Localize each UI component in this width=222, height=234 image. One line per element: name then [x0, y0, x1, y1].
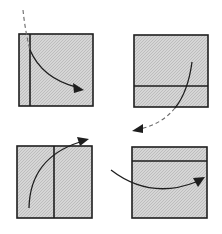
- panel-top-left: [19, 34, 93, 106]
- arrow-top-right-arrowhead-icon: [132, 124, 143, 133]
- diagram-canvas: [0, 0, 222, 234]
- panel-top-right-square: [134, 35, 208, 107]
- folding-diagram: [0, 0, 222, 234]
- panel-top-right: [134, 35, 208, 107]
- arrow-top-right-dashed-segment: [140, 108, 175, 129]
- arrow-bottom-left-arrowhead-icon: [77, 137, 89, 146]
- panel-bottom-left: [17, 146, 92, 218]
